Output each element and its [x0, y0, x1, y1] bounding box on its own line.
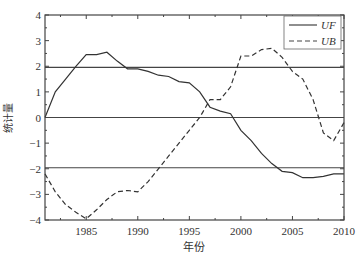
y-tick-label: 2: [36, 60, 42, 72]
x-tick-label: 1985: [75, 225, 98, 237]
x-axis-label: 年份: [183, 240, 205, 253]
series-uf: [45, 52, 344, 178]
y-tick-label: 3: [36, 35, 42, 47]
x-tick-label: 2000: [230, 225, 253, 237]
y-tick-label: 4: [36, 9, 42, 21]
y-axis-label: 统计量: [2, 103, 14, 133]
y-tick-label: −1: [29, 137, 41, 149]
y-tick-label: −3: [29, 188, 41, 200]
legend: UF UB: [284, 16, 341, 49]
legend-ub: UB: [321, 35, 336, 47]
x-tick-label: 1990: [127, 225, 150, 237]
y-tick-label: 0: [36, 112, 42, 124]
y-tick-label: −4: [29, 214, 41, 226]
x-tick-label: 1995: [178, 225, 201, 237]
series-ub: [45, 48, 344, 218]
chart: −4−3−2−101234198519901995200020052010 年份…: [0, 0, 363, 263]
legend-uf: UF: [321, 19, 336, 31]
x-tick-label: 2010: [333, 225, 356, 237]
x-tick-label: 2005: [281, 225, 304, 237]
y-tick-label: 1: [36, 86, 42, 98]
data-series: [45, 48, 344, 218]
y-tick-label: −2: [29, 163, 41, 175]
reference-lines: [45, 67, 344, 167]
